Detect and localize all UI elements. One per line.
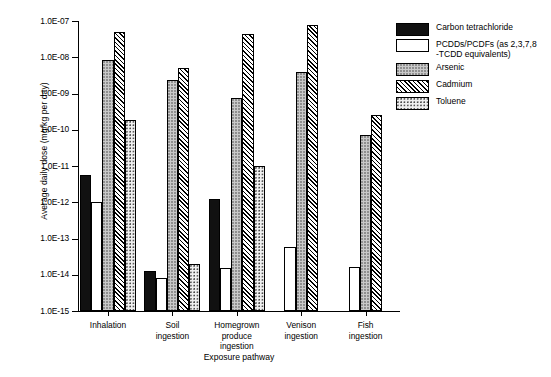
y-axis-line [78,21,79,311]
x-axis-tick [108,311,109,316]
x-axis-tick [237,311,238,316]
x-axis-label: Fish ingestion [318,320,414,341]
bar [254,166,265,311]
bar [349,267,360,311]
bar [102,60,113,311]
bar [114,32,125,311]
legend-item-label: Cadmium [436,79,472,89]
legend-item: Toluene [396,96,548,110]
solid-black-swatch [396,23,429,36]
y-axis-tick-label: 1.0E-14 [40,269,69,279]
bar [209,199,220,311]
y-axis-tick: 1.0E-15 [72,311,78,312]
y-axis-tick-label: 1.0E-12 [40,197,69,207]
diagonal-hatch-swatch [396,80,429,93]
bar [220,268,231,311]
legend-item-label: Toluene [436,96,466,106]
bar [242,34,253,311]
y-axis-tick-label: 1.0E-07 [40,16,69,26]
legend-item: Cadmium [396,79,548,93]
y-axis-tick-label: 1.0E-09 [40,88,69,98]
chart-figure: Average daily dose (mg/kg per day) 1.0E-… [0,0,551,377]
bar [156,278,167,311]
bar [91,202,102,311]
x-axis-tick [301,311,302,316]
x-axis-title: Exposure pathway [78,352,400,362]
bar [189,264,200,311]
y-axis-tick: 1.0E-12 [72,202,78,203]
y-axis-tick: 1.0E-10 [72,130,78,131]
bar [144,271,155,311]
legend-item: Arsenic [396,62,548,76]
white-swatch [396,39,429,52]
y-axis-tick: 1.0E-08 [72,57,78,58]
y-axis-tick: 1.0E-07 [72,21,78,22]
plot-area: 1.0E-071.0E-081.0E-091.0E-101.0E-111.0E-… [78,21,400,311]
legend-item-label: Carbon tetrachloride [436,22,513,32]
y-axis-tick: 1.0E-14 [72,275,78,276]
x-axis-tick [172,311,173,316]
bar [284,247,295,311]
legend-item-label: PCDDs/PCDFs (as 2,3,7,8 -TCDD equivalent… [436,39,537,59]
bar [125,120,136,311]
y-axis-tick: 1.0E-11 [72,166,78,167]
x-axis-tick [366,311,367,316]
y-axis-tick: 1.0E-09 [72,94,78,95]
chart-legend: Carbon tetrachloridePCDDs/PCDFs (as 2,3,… [396,22,548,113]
bar [80,175,91,311]
bar [167,80,178,311]
y-axis-tick-label: 1.0E-15 [40,306,69,316]
bar [360,135,371,311]
legend-item-label: Arsenic [436,62,464,72]
fine-dots-swatch [396,97,429,110]
y-axis-tick-label: 1.0E-11 [41,161,69,171]
bar [371,115,382,311]
y-axis-tick-label: 1.0E-10 [40,124,69,134]
bar [296,72,307,311]
bar [231,98,242,311]
y-axis-title: Average daily dose (mg/kg per day) [39,46,49,256]
light-gray-dotted-swatch [396,63,429,76]
y-axis-tick: 1.0E-13 [72,239,78,240]
legend-item: Carbon tetrachloride [396,22,548,36]
y-axis-tick-label: 1.0E-13 [40,233,69,243]
bar [307,25,318,311]
bar [178,68,189,311]
x-axis-line [78,311,400,312]
y-axis-tick-label: 1.0E-08 [40,52,69,62]
legend-item: PCDDs/PCDFs (as 2,3,7,8 -TCDD equivalent… [396,39,548,59]
